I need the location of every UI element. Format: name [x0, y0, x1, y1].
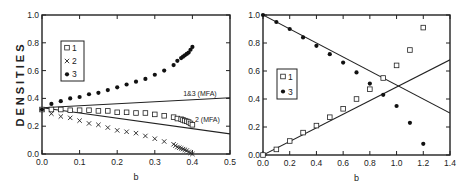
line-annotation: 1&3 (MFA) [183, 90, 216, 98]
square-marker [281, 74, 286, 79]
circle-marker [65, 72, 69, 76]
y-tick-label: 0.8 [248, 38, 260, 48]
square-marker [368, 87, 373, 92]
circle-marker [368, 82, 372, 86]
circle-marker [115, 85, 119, 89]
circle-marker [162, 69, 166, 73]
cross-marker [153, 137, 157, 141]
circle-marker [354, 70, 358, 74]
legend-label: 2 [72, 56, 77, 66]
y-tick-label: 0.4 [27, 93, 39, 103]
right-plot: 0.00.20.40.60.81.01.21.40.00.20.40.60.81… [248, 10, 456, 183]
square-marker [153, 112, 158, 117]
y-tick-label: 0.0 [248, 150, 260, 160]
square-marker [327, 115, 332, 120]
circle-marker [134, 80, 138, 84]
series-1 [40, 107, 195, 127]
circle-marker [68, 96, 72, 100]
square-marker [65, 45, 70, 50]
square-marker [96, 109, 101, 114]
circle-marker [40, 107, 44, 111]
circle-marker [190, 45, 194, 49]
square-marker [381, 76, 386, 81]
circle-marker [328, 52, 332, 56]
y-tick-label: 1.0 [27, 10, 39, 20]
square-marker [106, 109, 111, 114]
cross-marker [59, 114, 63, 118]
square-marker [68, 108, 73, 113]
circle-marker [261, 13, 265, 17]
legend-label: 3 [288, 87, 293, 97]
cross-marker [143, 134, 147, 138]
x-tick-label: 1.0 [391, 158, 403, 168]
square-marker [87, 108, 92, 113]
y-tick-label: 0.2 [248, 122, 260, 132]
circle-marker [394, 104, 398, 108]
x-tick-label: 0.8 [364, 158, 376, 168]
circle-marker [106, 88, 110, 92]
legend: 123 [61, 41, 84, 81]
square-marker [314, 123, 319, 128]
square-marker [421, 25, 426, 30]
figure: 0.00.10.20.30.40.50.00.20.40.60.81.0bDEN… [0, 0, 471, 187]
cross-marker [124, 130, 128, 134]
circle-marker [172, 63, 176, 67]
square-marker [341, 107, 346, 112]
square-marker [124, 110, 129, 115]
circle-marker [49, 102, 53, 106]
y-axis-label: DENSITIES [14, 41, 26, 126]
cross-marker [162, 139, 166, 143]
line-annotation: 2 (MFA) [195, 116, 220, 124]
x-tick-label: 0.2 [111, 157, 123, 167]
square-marker [162, 113, 167, 118]
x-axis-label: b [354, 173, 359, 183]
legend-label: 1 [288, 72, 293, 82]
square-marker [408, 48, 413, 53]
square-marker [59, 107, 64, 112]
y-tick-label: 1.0 [248, 10, 260, 20]
cross-marker [68, 116, 72, 120]
left-plot: 0.00.10.20.30.40.50.00.20.40.60.81.0bDEN… [14, 10, 236, 182]
cross-marker [77, 118, 81, 122]
legend-label: 3 [72, 69, 77, 79]
circle-marker [96, 91, 100, 95]
circle-marker [59, 99, 63, 103]
x-tick-label: 0.2 [284, 158, 296, 168]
circle-marker [87, 92, 91, 96]
circle-marker [281, 89, 285, 93]
legend-label: 1 [72, 43, 77, 53]
square-marker [274, 147, 279, 152]
circle-marker [175, 59, 179, 63]
x-tick-label: 0.4 [311, 158, 323, 168]
circle-marker [314, 44, 318, 48]
cross-marker [134, 131, 138, 135]
square-marker [143, 111, 148, 116]
y-tick-label: 0.4 [248, 94, 260, 104]
circle-marker [421, 142, 425, 146]
square-marker [77, 108, 82, 113]
square-marker [394, 63, 399, 68]
x-tick-label: 0.3 [149, 157, 161, 167]
x-tick-label: 0.6 [337, 158, 349, 168]
y-tick-label: 0.8 [27, 38, 39, 48]
x-tick-label: 1.4 [444, 158, 456, 168]
square-marker [354, 97, 359, 102]
square-marker [301, 130, 306, 135]
y-tick-label: 0.6 [248, 66, 260, 76]
square-marker [49, 107, 54, 112]
circle-marker [408, 121, 412, 125]
circle-marker [288, 27, 292, 31]
x-axis-label: b [133, 172, 138, 182]
y-tick-label: 0.6 [27, 66, 39, 76]
square-marker [115, 110, 120, 115]
circle-marker [274, 20, 278, 24]
circle-marker [143, 77, 147, 81]
square-marker [261, 153, 266, 158]
cross-marker [115, 128, 119, 132]
circle-marker [153, 73, 157, 77]
square-marker [190, 123, 195, 128]
square-marker [287, 139, 292, 144]
y-tick-label: 0.0 [27, 149, 39, 159]
circle-marker [381, 93, 385, 97]
x-tick-label: 0.4 [186, 157, 198, 167]
